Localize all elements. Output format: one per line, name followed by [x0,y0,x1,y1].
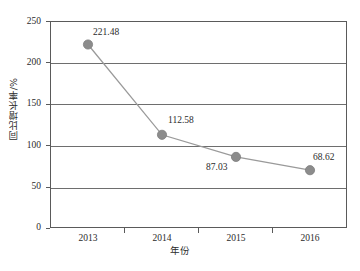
y-tick-label-200: 200 [27,57,41,67]
x-tick-mark-1 [124,228,125,233]
x-tick-label-2016: 2016 [301,233,320,244]
x-tick-label-2015: 2015 [227,233,246,244]
y-tick-label-50: 50 [32,181,42,191]
y-axis-title: 同比增长率/% [8,78,24,140]
data-label-2014: 112.58 [168,115,194,126]
data-point-2014 [157,130,166,139]
y-tick-label-0: 0 [36,222,41,232]
series-line [88,45,310,171]
x-tick-label-2013: 2013 [79,233,98,244]
data-label-2015: 87.03 [206,162,227,173]
data-label-2013: 221.48 [93,27,119,38]
series-growth-rate [50,21,347,228]
data-point-2013 [83,40,92,49]
figure-container: 250 200 150 100 50 0 同比增长率/% 221.48 112.… [0,0,360,271]
data-point-2015 [231,152,240,161]
y-tick-label-100: 100 [27,140,41,150]
y-tick-label-150: 150 [27,98,41,108]
x-tick-mark-2 [198,228,199,233]
data-point-2016 [305,166,314,175]
x-axis-title: 年份 [0,245,360,256]
y-tick-label-250: 250 [27,16,41,26]
y-tick-mark-0 [46,228,50,229]
x-tick-label-2014: 2014 [153,233,172,244]
x-tick-mark-3 [272,228,273,233]
data-label-2016: 68.62 [313,152,334,163]
